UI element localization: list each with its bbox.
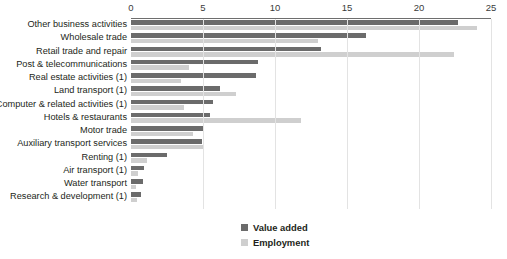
chart-row: Auxiliary transport services <box>0 138 507 151</box>
bar-employment <box>131 52 454 57</box>
chart-row: Retail trade and repair <box>0 46 507 59</box>
bar-value-added <box>131 20 458 25</box>
plot-area: Other business activitiesWholesale trade… <box>0 19 507 211</box>
category-label: Auxiliary transport services <box>0 137 127 150</box>
bar-value-added <box>131 179 143 184</box>
bar-value-added <box>131 113 210 118</box>
gridline <box>275 19 276 209</box>
category-label: Land transport (1) <box>0 84 127 97</box>
chart-row: Motor trade <box>0 125 507 138</box>
chart-row: Wholesale trade <box>0 32 507 45</box>
x-axis-tick-label: 10 <box>270 2 281 13</box>
bar-employment <box>131 65 189 70</box>
chart-row: Computer & related activities (1) <box>0 99 507 112</box>
chart-row: Renting (1) <box>0 152 507 165</box>
category-label: Research & development (1) <box>0 190 127 203</box>
bar-chart: 0510152025 Other business activitiesWhol… <box>0 0 507 259</box>
chart-row: Air transport (1) <box>0 165 507 178</box>
legend-label-employment: Employment <box>253 237 309 248</box>
gridline <box>203 19 204 209</box>
chart-row: Real estate activities (1) <box>0 72 507 85</box>
bar-employment <box>131 105 184 110</box>
x-axis-tick-label: 15 <box>342 2 353 13</box>
bar-employment <box>131 26 477 31</box>
bar-employment <box>131 198 137 203</box>
chart-row: Other business activities <box>0 19 507 32</box>
bar-employment <box>131 185 136 190</box>
category-label: Water transport <box>0 177 127 190</box>
category-label: Wholesale trade <box>0 31 127 44</box>
bar-value-added <box>131 73 256 78</box>
gridline <box>347 19 348 209</box>
bar-employment <box>131 92 236 97</box>
category-label: Hotels & restaurants <box>0 111 127 124</box>
bar-employment <box>131 158 147 163</box>
category-label: Other business activities <box>0 18 127 31</box>
chart-legend: Value added Employment <box>241 222 309 252</box>
legend-label-value-added: Value added <box>253 222 308 233</box>
bar-employment <box>131 171 138 176</box>
bar-employment <box>131 145 204 150</box>
category-label: Retail trade and repair <box>0 45 127 58</box>
bar-employment <box>131 132 193 137</box>
category-label: Post & telecommunications <box>0 58 127 71</box>
x-axis-tick-label: 5 <box>200 2 205 13</box>
bar-value-added <box>131 166 144 171</box>
legend-swatch-employment <box>241 239 248 246</box>
gridline <box>419 19 420 209</box>
category-label: Computer & related activities (1) <box>0 98 127 111</box>
chart-row: Hotels & restaurants <box>0 112 507 125</box>
gridline <box>491 19 492 209</box>
category-label: Motor trade <box>0 124 127 137</box>
bar-value-added <box>131 60 258 65</box>
bar-employment <box>131 39 318 44</box>
category-label: Renting (1) <box>0 151 127 164</box>
x-axis-tick-label: 0 <box>128 2 133 13</box>
x-axis-tick-label: 25 <box>486 2 497 13</box>
category-label: Real estate activities (1) <box>0 71 127 84</box>
category-label: Air transport (1) <box>0 164 127 177</box>
legend-item-value-added: Value added <box>241 222 309 233</box>
bar-value-added <box>131 192 141 197</box>
bar-value-added <box>131 153 167 158</box>
bar-value-added <box>131 33 366 38</box>
chart-row: Land transport (1) <box>0 85 507 98</box>
bar-employment <box>131 79 181 84</box>
chart-row: Post & telecommunications <box>0 59 507 72</box>
legend-item-employment: Employment <box>241 237 309 248</box>
x-axis-tick-labels: 0510152025 <box>0 0 507 18</box>
chart-row: Research & development (1) <box>0 191 507 204</box>
bar-value-added <box>131 47 321 52</box>
bar-value-added <box>131 100 213 105</box>
bar-value-added <box>131 139 202 144</box>
x-axis-tick-label: 20 <box>414 2 425 13</box>
bar-value-added <box>131 126 204 131</box>
bar-value-added <box>131 86 220 91</box>
chart-row: Water transport <box>0 178 507 191</box>
legend-swatch-value-added <box>241 224 248 231</box>
